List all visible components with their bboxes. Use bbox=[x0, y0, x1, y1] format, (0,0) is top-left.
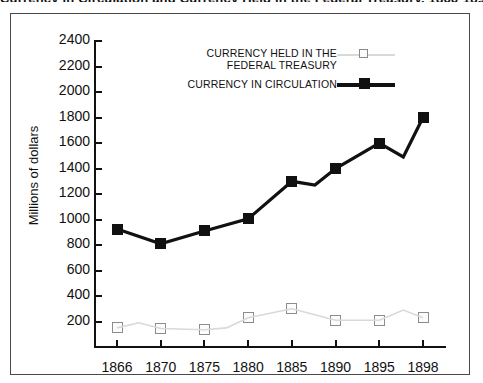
filled-square-marker-icon bbox=[359, 78, 370, 89]
y-tick-label: 200 bbox=[67, 312, 90, 328]
data-point-treasury bbox=[199, 324, 210, 335]
data-point-circulation bbox=[112, 224, 123, 235]
data-point-circulation bbox=[243, 213, 254, 224]
legend-sample-circulation bbox=[337, 78, 395, 92]
data-point-circulation bbox=[286, 176, 297, 187]
x-tick bbox=[422, 340, 424, 347]
x-tick bbox=[116, 340, 118, 347]
y-tick-label: 1800 bbox=[59, 108, 90, 124]
y-tick: 1400 bbox=[95, 168, 102, 170]
x-tick bbox=[247, 340, 249, 347]
data-point-circulation bbox=[374, 138, 385, 149]
y-tick: 800 bbox=[95, 244, 102, 246]
legend-label-treasury-line1: CURRENCY HELD IN THE bbox=[207, 48, 337, 60]
legend-label-treasury: CURRENCY HELD IN THE FEDERAL TREASURY bbox=[207, 48, 337, 71]
legend-entry-treasury: CURRENCY HELD IN THE FEDERAL TREASURY bbox=[160, 48, 395, 74]
x-tick-label: 1890 bbox=[320, 359, 351, 375]
y-tick: 2000 bbox=[95, 91, 102, 93]
data-point-treasury bbox=[286, 303, 297, 314]
y-tick: 1600 bbox=[95, 142, 102, 144]
y-tick-label: 600 bbox=[67, 261, 90, 277]
legend-entry-circulation: CURRENCY IN CIRCULATION bbox=[160, 78, 395, 100]
x-tick-label: 1870 bbox=[145, 359, 176, 375]
y-tick: 1200 bbox=[95, 193, 102, 195]
x-tick-label: 1898 bbox=[407, 359, 438, 375]
x-tick bbox=[335, 340, 337, 347]
x-tick-label: 1880 bbox=[233, 359, 264, 375]
y-tick-label: 1200 bbox=[59, 184, 90, 200]
chart-legend: CURRENCY HELD IN THE FEDERAL TREASURY CU… bbox=[160, 48, 395, 100]
data-point-circulation bbox=[418, 112, 429, 123]
x-tick-label: 1866 bbox=[101, 359, 132, 375]
x-tick bbox=[160, 340, 162, 347]
legend-label-treasury-line2: FEDERAL TREASURY bbox=[207, 60, 337, 72]
data-point-treasury bbox=[374, 315, 385, 326]
data-point-treasury bbox=[155, 323, 166, 334]
x-tick bbox=[291, 340, 293, 347]
data-point-treasury bbox=[112, 322, 123, 333]
y-tick-label: 2000 bbox=[59, 82, 90, 98]
y-tick-label: 400 bbox=[67, 286, 90, 302]
y-tick-label: 1600 bbox=[59, 133, 90, 149]
y-tick: 2200 bbox=[95, 66, 102, 68]
open-square-marker-icon bbox=[359, 49, 368, 58]
data-point-treasury bbox=[330, 315, 341, 326]
legend-label-circulation-line1: CURRENCY IN CIRCULATION bbox=[188, 79, 338, 91]
y-axis-title: Millions of dollars bbox=[26, 96, 41, 256]
y-tick-label: 2200 bbox=[59, 57, 90, 73]
legend-label-circulation: CURRENCY IN CIRCULATION bbox=[188, 79, 338, 91]
x-tick bbox=[378, 340, 380, 347]
y-tick: 1800 bbox=[95, 117, 102, 119]
x-tick bbox=[203, 340, 205, 347]
y-tick-label: 1400 bbox=[59, 159, 90, 175]
x-tick-label: 1895 bbox=[364, 359, 395, 375]
data-point-treasury bbox=[418, 312, 429, 323]
data-point-circulation bbox=[155, 238, 166, 249]
data-point-circulation bbox=[330, 163, 341, 174]
data-point-treasury bbox=[243, 312, 254, 323]
y-tick: 200 bbox=[95, 321, 102, 323]
x-tick-label: 1885 bbox=[276, 359, 307, 375]
y-tick: 400 bbox=[95, 295, 102, 297]
y-tick-label: 800 bbox=[67, 235, 90, 251]
data-point-circulation bbox=[199, 225, 210, 236]
y-tick-label: 2400 bbox=[59, 31, 90, 47]
y-tick: 1000 bbox=[95, 219, 102, 221]
chart-figure: Currency in Circulation and Currency Hel… bbox=[0, 0, 483, 383]
legend-sample-treasury bbox=[337, 48, 395, 62]
chart-title: Currency in Circulation and Currency Hel… bbox=[0, 0, 483, 2]
y-tick: 600 bbox=[95, 270, 102, 272]
x-tick-label: 1875 bbox=[189, 359, 220, 375]
y-tick: 2400 bbox=[95, 40, 102, 42]
y-tick-label: 1000 bbox=[59, 210, 90, 226]
